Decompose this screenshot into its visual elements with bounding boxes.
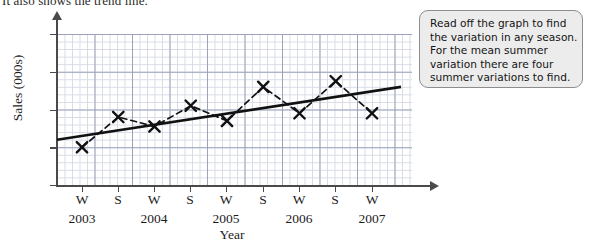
note-line-2: For the mean summer [430, 44, 573, 58]
callout-note: Read off the graph to find the variation… [419, 10, 583, 88]
trend-line [57, 87, 401, 140]
note-line-0: Read off the graph to find [430, 17, 573, 31]
series-layer [0, 0, 440, 247]
sales-trend-chart: 0 20 40 60 80 W S W S W S W [0, 0, 440, 247]
note-line-1: the variation in any season. [430, 31, 573, 45]
note-line-4: summer variations to find. [430, 71, 573, 85]
figure-root: It also shows the trend line. 0 20 40 60… [0, 0, 596, 247]
note-line-3: variation there are four [430, 58, 573, 72]
